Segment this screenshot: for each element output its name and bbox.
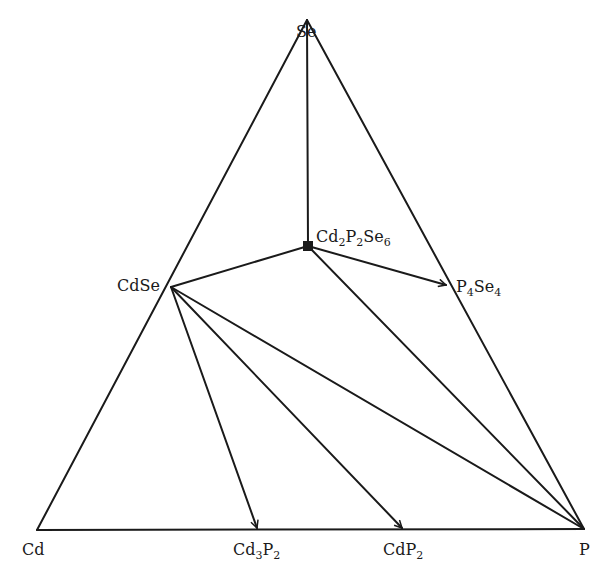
edge-se-p [307,20,584,529]
tie-lines [171,20,584,529]
label-cd2p2se6: Cd2P2Se6 [316,227,391,249]
label-se: Se [296,22,316,41]
tie-cdse-cd3p2 [171,287,257,528]
label-cdse: CdSe [117,276,160,295]
label-cd3p2: Cd3P2 [233,540,280,562]
edge-cd-se [37,20,307,530]
cd2p2se6-marker [303,241,313,251]
edge-cd-p [37,529,584,530]
label-p: P [579,540,590,559]
label-cdp2: CdP2 [383,540,423,562]
phase-diagram-svg: Se Cd P CdSe Cd2P2Se6 P4Se4 Cd3P2 CdP2 [0,0,613,583]
label-p4se4: P4Se4 [456,277,501,299]
label-cd: Cd [22,540,44,559]
triangle-outline [37,20,584,530]
tie-cdse-cd2p2se6 [171,246,308,287]
tie-se-cd2p2se6 [307,20,308,246]
tie-cdse-p [171,287,584,529]
ternary-diagram: Se Cd P CdSe Cd2P2Se6 P4Se4 Cd3P2 CdP2 [0,0,613,583]
tie-cdse-cdp2 [171,287,402,528]
tie-cd2p2se6-p [308,246,584,529]
tie-cd2p2se6-p4se4 [308,246,446,285]
